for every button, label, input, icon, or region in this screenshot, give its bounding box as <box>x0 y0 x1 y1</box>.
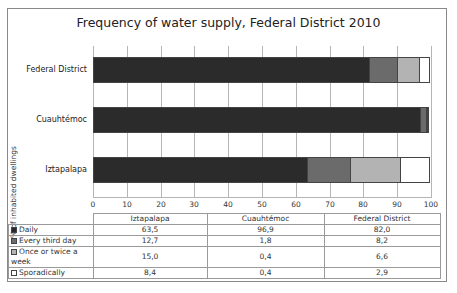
table-cell: 0,4 <box>207 247 324 268</box>
table-column-header: Iztapalapa <box>93 214 207 225</box>
table-cell: 1,8 <box>207 236 324 247</box>
table-cell: 0,4 <box>207 268 324 279</box>
legend-swatch-icon <box>11 270 17 276</box>
table-column-header: Cuauhtémoc <box>207 214 324 225</box>
table-cell: 96,9 <box>207 225 324 236</box>
legend-swatch-icon <box>11 249 17 255</box>
legend-swatch-icon <box>11 238 17 244</box>
category-label: Federal District <box>26 65 87 74</box>
table-row: Once or twice a week15,00,46,6 <box>9 247 441 268</box>
table-cell: 6,6 <box>324 247 440 268</box>
x-tick-label: 0 <box>78 200 108 209</box>
table-column-header: Federal District <box>324 214 440 225</box>
bar-segment-once-or-twice-a-week <box>398 57 420 83</box>
legend-swatch-icon <box>11 227 17 233</box>
chart-title: Frequency of water supply, Federal Distr… <box>0 15 457 30</box>
x-tick-label: 40 <box>213 200 243 209</box>
x-tick-label: 10 <box>112 200 142 209</box>
bar-iztapalapa <box>93 157 431 183</box>
table-cell: 12,7 <box>93 236 207 247</box>
x-tick-label: 30 <box>179 200 209 209</box>
bar-segment-sporadically <box>401 157 429 183</box>
bar-cuauhtémoc <box>93 107 431 133</box>
legend-entry: Once or twice a week <box>9 247 94 268</box>
table-cell: 2,9 <box>324 268 440 279</box>
gridline <box>431 46 432 198</box>
table-row: Sporadically8,40,42,9 <box>9 268 441 279</box>
table-cell: 63,5 <box>93 225 207 236</box>
table-cell: 8,4 <box>93 268 207 279</box>
bar-federal-district <box>93 57 431 83</box>
legend-entry: Every third day <box>9 236 94 247</box>
legend-label: Once or twice a week <box>11 247 78 266</box>
bar-segment-once-or-twice-a-week <box>351 157 402 183</box>
x-tick-label: 100 <box>416 200 446 209</box>
bar-segment-daily <box>93 107 421 133</box>
x-tick-label: 60 <box>281 200 311 209</box>
legend-label: Sporadically <box>19 268 65 277</box>
table-row: Daily63,596,982,0 <box>9 225 441 236</box>
category-label: Cuauhtémoc <box>36 115 87 124</box>
bar-segment-sporadically <box>420 57 430 83</box>
x-tick-label: 70 <box>315 200 345 209</box>
x-tick-label: 50 <box>247 200 277 209</box>
table-row: Every third day12,71,88,2 <box>9 236 441 247</box>
legend-entry: Daily <box>9 225 94 236</box>
legend-label: Every third day <box>19 236 76 245</box>
table-cell: 8,2 <box>324 236 440 247</box>
plot-area <box>93 46 431 198</box>
x-tick-label: 20 <box>146 200 176 209</box>
bar-segment-daily <box>93 57 370 83</box>
category-label: Iztapalapa <box>45 165 87 174</box>
x-tick-label: 80 <box>348 200 378 209</box>
data-table: IztapalapaCuauhtémocFederal DistrictDail… <box>8 213 441 279</box>
table-cell: 15,0 <box>93 247 207 268</box>
legend-label: Daily <box>19 225 38 234</box>
legend-entry: Sporadically <box>9 268 94 279</box>
bar-segment-sporadically <box>428 107 429 133</box>
bar-segment-daily <box>93 157 308 183</box>
bar-segment-every-third-day <box>370 57 398 83</box>
x-tick-label: 90 <box>382 200 412 209</box>
bar-segment-every-third-day <box>308 157 351 183</box>
table-corner <box>9 214 94 225</box>
table-cell: 82,0 <box>324 225 440 236</box>
